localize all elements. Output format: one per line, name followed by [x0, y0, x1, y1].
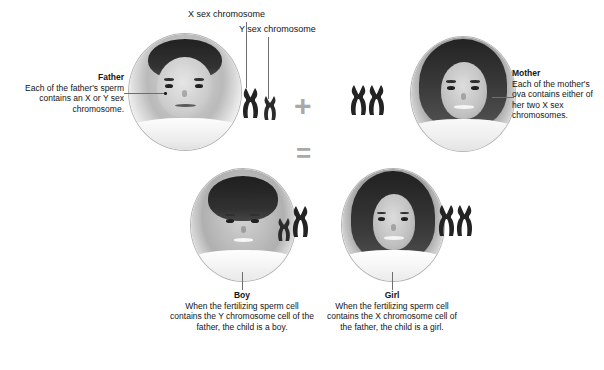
chromosome-x-father	[243, 88, 258, 118]
chromosome-y-boy	[278, 218, 290, 241]
father-photo	[129, 34, 241, 150]
girl-caption: Girl When the fertilizing sperm cell con…	[320, 290, 464, 332]
girl-chromosome-pair	[438, 203, 482, 247]
father-leader-dot	[164, 92, 167, 95]
chromosome-x-girl-1	[439, 205, 454, 236]
girl-title: Girl	[320, 290, 464, 301]
x-sex-chromosome-label: X sex chromosome	[188, 9, 265, 20]
equals-operator: =	[296, 140, 311, 166]
boy-leader-line	[242, 272, 243, 290]
chromosome-y-father	[264, 96, 276, 120]
mother-caption: Mother Each of the mother's ova contains…	[512, 68, 604, 121]
boy-caption: Boy When the fertilizing sperm cell cont…	[170, 290, 314, 332]
mother-portrait	[410, 36, 516, 152]
girl-photo	[342, 169, 444, 281]
father-chromosome-pair	[240, 86, 286, 130]
father-caption: Father Each of the father's sperm contai…	[0, 72, 124, 114]
y-sex-chromosome-label: Y sex chromosome	[239, 24, 316, 35]
mother-leader-line	[492, 97, 514, 98]
girl-body: When the fertilizing sperm cell contains…	[327, 301, 457, 332]
chromosome-x-boy	[293, 206, 308, 237]
sex-determination-diagram: X sex chromosome Y sex chromosome Father…	[0, 0, 604, 370]
boy-title: Boy	[170, 290, 314, 301]
mother-chromosome-pair	[348, 83, 394, 127]
father-portrait	[128, 33, 242, 151]
mother-body: Each of the mother's ova contains either…	[512, 79, 593, 121]
boy-body: When the fertilizing sperm cell contains…	[170, 301, 314, 332]
chromosome-x-mother-2	[369, 85, 384, 115]
mother-photo	[411, 37, 515, 151]
boy-chromosome-pair	[278, 204, 322, 248]
mother-title: Mother	[512, 68, 604, 79]
girl-leader-line	[392, 272, 393, 290]
chromosome-x-mother-1	[351, 85, 366, 115]
father-leader-line	[124, 93, 166, 94]
father-body: Each of the father's sperm contains an X…	[25, 83, 124, 114]
father-title: Father	[0, 72, 124, 83]
plus-operator: +	[294, 91, 312, 121]
chromosome-x-girl-2	[457, 205, 472, 236]
girl-portrait	[341, 168, 445, 282]
